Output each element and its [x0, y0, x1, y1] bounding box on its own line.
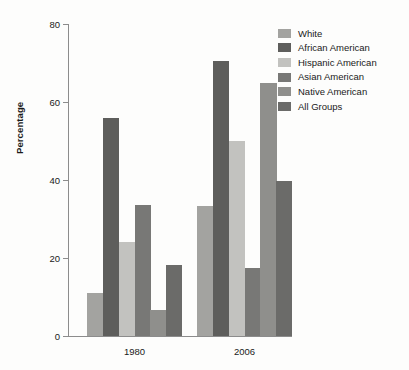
- y-tick-mark: [63, 102, 68, 103]
- legend-label: White: [298, 29, 322, 39]
- bar: [87, 293, 103, 336]
- legend-label: African American: [298, 43, 370, 53]
- y-tick-label: 80: [49, 19, 60, 30]
- bar: [197, 206, 213, 336]
- legend-item[interactable]: Native American: [278, 84, 406, 99]
- x-axis-group-label: 1980: [124, 346, 145, 357]
- bar: [150, 310, 166, 336]
- legend-label: Asian American: [298, 72, 364, 82]
- bar: [245, 268, 261, 336]
- plot-area: 020406080 19802006: [68, 24, 284, 336]
- legend-swatch-icon: [278, 58, 291, 67]
- y-tick-mark: [63, 258, 68, 259]
- bar: [276, 181, 292, 336]
- y-tick-mark: [63, 180, 68, 181]
- legend-label: Hispanic American: [298, 58, 377, 68]
- bar: [135, 205, 151, 336]
- legend-item[interactable]: All Groups: [278, 99, 406, 114]
- legend-label: All Groups: [298, 102, 342, 112]
- bar: [229, 141, 245, 336]
- bar: [103, 118, 119, 336]
- x-axis-line: [68, 336, 292, 337]
- legend-swatch-icon: [278, 87, 291, 96]
- legend-item[interactable]: Asian American: [278, 70, 406, 85]
- y-axis-title: Percentage: [14, 128, 28, 139]
- chart-legend: WhiteAfrican AmericanHispanic AmericanAs…: [278, 26, 406, 114]
- y-tick-mark: [63, 24, 68, 25]
- bar: [119, 242, 135, 336]
- legend-item[interactable]: African American: [278, 41, 406, 56]
- y-tick-mark: [63, 336, 68, 337]
- y-tick-label: 20: [49, 253, 60, 264]
- legend-item[interactable]: White: [278, 26, 406, 41]
- legend-item[interactable]: Hispanic American: [278, 55, 406, 70]
- y-tick-label: 0: [55, 331, 60, 342]
- y-tick-label: 40: [49, 175, 60, 186]
- legend-swatch-icon: [278, 29, 291, 38]
- legend-swatch-icon: [278, 102, 291, 111]
- bar-chart: Percentage 020406080 19802006 WhiteAfric…: [0, 0, 409, 370]
- legend-swatch-icon: [278, 73, 291, 82]
- legend-label: Native American: [298, 87, 367, 97]
- bar: [260, 83, 276, 337]
- legend-swatch-icon: [278, 43, 291, 52]
- y-tick-label: 60: [49, 97, 60, 108]
- x-axis-group-label: 2006: [234, 346, 255, 357]
- bar: [213, 61, 229, 336]
- bar: [166, 265, 182, 336]
- bars-layer: [69, 24, 284, 336]
